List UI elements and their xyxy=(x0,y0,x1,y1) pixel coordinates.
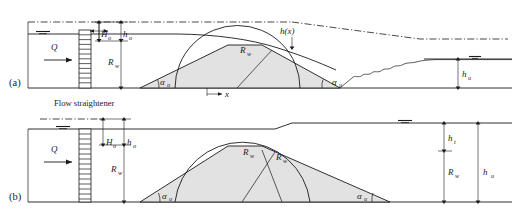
crest-radius-label-b: R xyxy=(242,147,249,157)
depth-upstream-label-a: h xyxy=(123,29,128,39)
tail-head-label-b: h xyxy=(448,133,453,143)
angle-upstream-sub-a: o xyxy=(167,81,170,88)
depth-upstream-label-b: h xyxy=(127,137,132,147)
tailwater-depth-label-b: h xyxy=(483,167,488,177)
flow-straightener-b xyxy=(79,129,91,202)
tail-radius-sub-b: w xyxy=(455,172,460,179)
flow-depth-arrow-a xyxy=(290,47,295,51)
head-upstream-sub-a: o xyxy=(108,34,111,41)
tail-radius-label-b: R xyxy=(447,167,454,177)
angle-downstream-label-b: α xyxy=(357,191,362,201)
figure-root: (a) R w xyxy=(0,0,512,213)
angle-downstream-sub-b: u xyxy=(364,195,367,202)
angle-upstream-label-a: α xyxy=(160,77,165,87)
flow-depth-profile-label-a: h(x) xyxy=(280,26,295,36)
water-level-symbol-downstream-b xyxy=(398,121,412,123)
depth-upstream-sub-b: o xyxy=(133,142,136,149)
water-level-symbol-downstream-a xyxy=(469,57,481,59)
panel-b: (b) xyxy=(9,117,512,204)
tailwater-depth-sub-b: u xyxy=(491,172,494,179)
tail-head-sub-b: t xyxy=(454,138,456,145)
weir-radius-sub-b: w xyxy=(118,169,123,176)
depth-upstream-sub-a: o xyxy=(129,34,132,41)
flow-straightener-label: Flow straightener xyxy=(54,98,115,108)
discharge-label-b: Q xyxy=(51,144,58,154)
hydraulic-definition-sketch: (a) R w xyxy=(0,0,512,213)
weir-radius-sub-a: w xyxy=(115,62,120,69)
coordinate-x-label-a: x xyxy=(224,89,229,99)
discharge-label-a: Q xyxy=(51,42,58,52)
panel-a-label: (a) xyxy=(9,77,21,89)
flow-straightener-a xyxy=(79,30,91,88)
energy-grade-line-downstream xyxy=(292,22,508,39)
water-level-symbol-upstream-b xyxy=(56,127,70,129)
tailwater-depth-sub-a: u xyxy=(468,74,471,81)
water-level-symbol-upstream-a xyxy=(36,32,50,34)
panel-a: (a) R w xyxy=(9,20,512,108)
dune-body-b xyxy=(140,146,390,202)
weir-radius-label-a: R xyxy=(107,57,114,67)
angle-upstream-sub-b: o xyxy=(169,195,172,202)
crest-radius-label-a: R xyxy=(239,45,246,55)
panel-b-label: (b) xyxy=(9,191,22,203)
scour-bed-profile-a xyxy=(340,60,512,88)
secondary-radius-label-b: R xyxy=(275,152,282,162)
head-upstream-label-b: H xyxy=(105,137,113,147)
weir-radius-label-b: R xyxy=(110,164,117,174)
head-upstream-label-a: H xyxy=(100,29,108,39)
angle-upstream-label-b: α xyxy=(162,191,167,201)
tailwater-depth-label-a: h xyxy=(462,69,467,79)
angle-downstream-label-a: α xyxy=(332,77,337,87)
